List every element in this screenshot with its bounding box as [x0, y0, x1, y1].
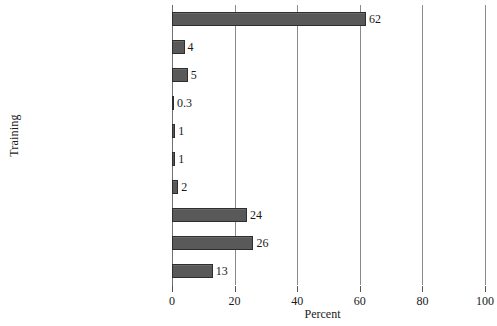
- x-tick-60: [360, 286, 361, 292]
- bar-value-label: 1: [178, 152, 184, 166]
- bar-value-label: 0.3: [177, 96, 192, 110]
- x-axis-title: Percent: [0, 307, 497, 322]
- x-axis-title-text: Percent: [305, 307, 341, 321]
- bar: [172, 264, 213, 278]
- bar: [172, 208, 247, 222]
- bar: [172, 96, 174, 110]
- bar: [172, 236, 253, 250]
- gridline-80: [422, 5, 423, 285]
- bar: [172, 124, 175, 138]
- bar-value-label: 13: [216, 264, 228, 278]
- gridline-40: [297, 5, 298, 285]
- bar-value-label: 62: [369, 12, 381, 26]
- bar-chart: Training 020406080100Clinical FP62Norpla…: [0, 0, 497, 326]
- plot-area: 020406080100Clinical FP62Norplant insert…: [172, 5, 485, 285]
- gridline-100: [485, 5, 486, 285]
- x-tick-100: [485, 286, 486, 292]
- bar-value-label: 24: [250, 208, 262, 222]
- x-tick-20: [235, 286, 236, 292]
- y-axis-title: Training: [7, 96, 22, 176]
- x-tick-80: [422, 286, 423, 292]
- bar: [172, 152, 175, 166]
- bar: [172, 68, 188, 82]
- bar-value-label: 2: [181, 180, 187, 194]
- x-tick-0: [172, 286, 173, 292]
- bar: [172, 40, 185, 54]
- bar-value-label: 26: [256, 236, 268, 250]
- bar-value-label: 4: [188, 40, 194, 54]
- bar-value-label: 5: [191, 68, 197, 82]
- bar: [172, 180, 178, 194]
- bar-value-label: 1: [178, 124, 184, 138]
- gridline-60: [360, 5, 361, 285]
- x-tick-40: [297, 286, 298, 292]
- bar: [172, 12, 366, 26]
